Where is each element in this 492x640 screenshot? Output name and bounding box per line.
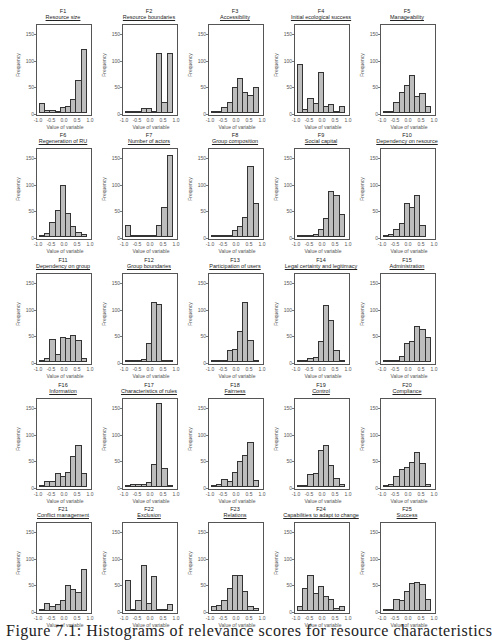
y-tick-label: 150 [22, 529, 34, 535]
panel-name: Administration [362, 263, 452, 269]
x-tick-label: 0.5 [246, 117, 253, 123]
x-tick-label: -1.0 [378, 491, 387, 497]
x-tick-label: 0.5 [160, 491, 167, 497]
y-tick-label: 50 [280, 84, 292, 90]
x-tick-label: -0.5 [391, 117, 400, 123]
x-tick-label: -0.5 [391, 241, 400, 247]
panel-title: F25Success [372, 506, 442, 518]
x-tick-label: -0.5 [47, 366, 56, 372]
x-tick-label: 0.5 [246, 491, 253, 497]
x-tick-label: -1.0 [206, 615, 215, 621]
y-tick-label: 100 [194, 432, 206, 438]
x-tick-label: 0.0 [405, 615, 412, 621]
x-tick-label: -0.5 [305, 117, 314, 123]
x-tick-label: 0.0 [233, 117, 240, 123]
y-tick-label: 50 [108, 458, 120, 464]
histogram-panel-f13: F13Participation of usersFrequency050100… [172, 249, 258, 373]
y-tick-label: 100 [194, 556, 206, 562]
y-tick-label: 50 [108, 84, 120, 90]
histogram-bar [247, 340, 253, 362]
y-tick-label: 0 [22, 609, 34, 615]
x-tick-label: -0.5 [219, 366, 228, 372]
x-tick-label: -0.5 [305, 491, 314, 497]
y-tick-label: 150 [108, 31, 120, 37]
plot-area [122, 398, 178, 490]
x-tick-label: 0.0 [147, 241, 154, 247]
y-axis-label: Frequency [187, 45, 193, 85]
histogram-bar [425, 106, 431, 113]
x-tick-label: 0.0 [233, 615, 240, 621]
histogram-panel-f22: F22ExclusionFrequency050100150-1.0-0.50.… [86, 498, 172, 622]
histogram-panel-f19: F19ControlFrequency050100150-1.0-0.50.00… [258, 374, 344, 498]
panel-name: Compliance [362, 388, 452, 394]
y-tick-label: 100 [194, 182, 206, 188]
histogram-panel-f1: F1Resource sizeFrequency050100150-1.0-0.… [0, 0, 86, 124]
x-tick-label: -1.0 [120, 117, 129, 123]
y-tick-label: 50 [280, 333, 292, 339]
plot-area [380, 522, 436, 614]
y-tick-label: 50 [194, 208, 206, 214]
plot-area [294, 522, 350, 614]
x-tick-label: 1.0 [431, 241, 438, 247]
x-tick-label: 0.0 [319, 117, 326, 123]
plot-area [208, 273, 264, 365]
y-tick-label: 150 [22, 31, 34, 37]
x-tick-label: -1.0 [292, 491, 301, 497]
y-tick-label: 100 [108, 432, 120, 438]
y-axis-label: Frequency [273, 169, 279, 209]
plot-area [208, 522, 264, 614]
panel-title: F5Manageability [372, 8, 442, 20]
x-tick-label: -1.0 [292, 241, 301, 247]
y-axis-label: Frequency [15, 45, 21, 85]
x-tick-label: -1.0 [378, 366, 387, 372]
x-tick-label: -0.5 [47, 117, 56, 123]
x-tick-label: -0.5 [391, 491, 400, 497]
plot-area [380, 24, 436, 116]
y-axis-label: Frequency [15, 419, 21, 459]
x-tick-label: 0.5 [418, 615, 425, 621]
y-tick-label: 50 [194, 333, 206, 339]
x-tick-label: 0.5 [74, 241, 81, 247]
y-tick-label: 100 [108, 58, 120, 64]
x-tick-label: 0.5 [160, 366, 167, 372]
panel-name: Dependency on resource [362, 138, 452, 144]
y-tick-label: 150 [280, 31, 292, 37]
x-tick-label: -1.0 [206, 117, 215, 123]
histogram-panel-f21: F21Conflict managementFrequency050100150… [0, 498, 86, 622]
y-axis-label: Frequency [15, 543, 21, 583]
y-tick-label: 150 [194, 155, 206, 161]
x-tick-label: 0.5 [160, 241, 167, 247]
y-tick-label: 0 [366, 360, 378, 366]
x-tick-label: -1.0 [34, 366, 43, 372]
x-tick-label: -0.5 [305, 615, 314, 621]
y-tick-label: 50 [194, 582, 206, 588]
plot-area [294, 273, 350, 365]
y-tick-label: 0 [366, 485, 378, 491]
y-tick-label: 50 [280, 458, 292, 464]
y-tick-label: 50 [366, 84, 378, 90]
plot-area [208, 24, 264, 116]
x-tick-label: -1.0 [378, 241, 387, 247]
plot-area [208, 398, 264, 490]
plot-area [122, 273, 178, 365]
y-tick-label: 0 [280, 235, 292, 241]
x-tick-label: -1.0 [120, 366, 129, 372]
y-axis-label: Frequency [359, 45, 365, 85]
x-tick-label: -0.5 [305, 241, 314, 247]
y-tick-label: 100 [366, 307, 378, 313]
histogram-bar [425, 337, 431, 362]
y-tick-label: 50 [22, 582, 34, 588]
x-tick-label: -0.5 [305, 366, 314, 372]
y-tick-label: 0 [22, 235, 34, 241]
x-tick-label: -1.0 [120, 615, 129, 621]
panel-title: F10Dependency on resource [372, 132, 442, 144]
plot-area [294, 398, 350, 490]
histogram-panel-f25: F25SuccessFrequency050100150-1.0-0.50.00… [344, 498, 430, 622]
histogram-panel-f7: F7Number of actorsFrequency050100150-1.0… [86, 124, 172, 248]
histogram-panel-f11: F11Dependency on groupFrequency050100150… [0, 249, 86, 373]
y-tick-label: 150 [280, 529, 292, 535]
x-tick-label: -0.5 [47, 491, 56, 497]
y-tick-label: 0 [194, 235, 206, 241]
y-tick-label: 100 [280, 182, 292, 188]
y-tick-label: 100 [22, 307, 34, 313]
